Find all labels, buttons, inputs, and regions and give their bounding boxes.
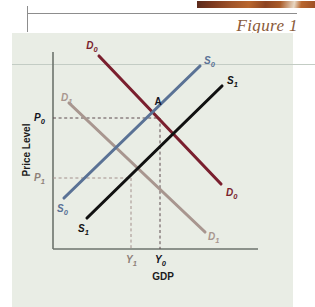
curve-label-s0-top: S0 bbox=[204, 55, 216, 69]
curve-label-d0-top: D0 bbox=[86, 40, 98, 54]
axis-label-p1: P1 bbox=[34, 172, 45, 186]
equilibrium-point-a-label: A bbox=[154, 96, 161, 107]
axis-label-y1: Y1 bbox=[126, 254, 137, 268]
curve-label-d1-end: D1 bbox=[208, 231, 219, 245]
curve-supply-initial bbox=[64, 66, 200, 198]
axis-label-y0: Y0 bbox=[155, 254, 167, 268]
as-ad-diagram-svg: D0 D0 D1 D1 S0 S0 S1 S1 A P0 P1 bbox=[0, 0, 315, 307]
chart-graphics: D0 D0 D1 D1 S0 S0 S1 S1 A P0 P1 bbox=[0, 0, 315, 307]
curve-label-s1-top: S1 bbox=[227, 75, 238, 89]
curve-label-s0-bottom: S0 bbox=[57, 203, 69, 217]
curve-label-s1-bottom: S1 bbox=[78, 223, 89, 237]
axis-label-p0: P0 bbox=[34, 112, 46, 126]
y-axis-title: Price Level bbox=[21, 123, 32, 176]
curve-label-d1-top: D1 bbox=[61, 92, 72, 106]
curve-label-d0-end: D0 bbox=[226, 187, 238, 201]
x-axis-title: GDP bbox=[152, 271, 174, 282]
figure-page: Figure 1 D0 D0 D1 D1 bbox=[0, 0, 315, 307]
